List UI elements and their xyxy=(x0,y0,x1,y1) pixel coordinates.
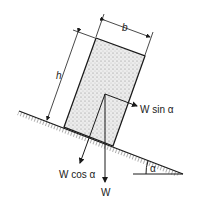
label-w-cos: W cos α xyxy=(59,169,96,180)
label-h: h xyxy=(56,70,62,81)
inclined-plane-diagram: b h W sin α W cos α W α xyxy=(0,0,201,209)
label-alpha: α xyxy=(150,163,156,174)
dimension-b-ext-left xyxy=(96,14,104,37)
label-b: b xyxy=(122,22,128,33)
label-w-sin: W sin α xyxy=(140,104,174,115)
label-w: W xyxy=(101,187,111,198)
